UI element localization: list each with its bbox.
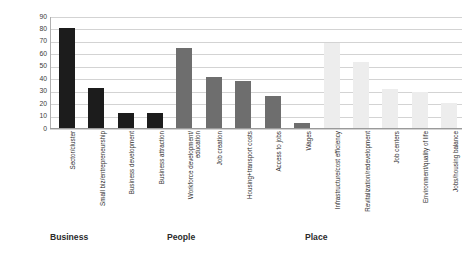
bar [118,113,134,128]
bar [147,113,163,128]
x-tick-label: Business development [128,131,135,219]
x-tick-label: Revitalization/redevelopment [364,131,371,219]
x-tick-label: Sector/cluster [69,131,76,219]
plot-area [50,17,462,129]
bar [235,81,251,128]
gridline [50,129,462,130]
bar [412,92,428,128]
x-tick-label: Business attraction [158,131,165,219]
bar [176,48,192,128]
y-tick-label: 60 [31,51,47,58]
bar [382,89,398,128]
x-tick-label: Small biz/entrepreneurship [99,131,106,219]
x-tick-label: Environment/quality of life [422,131,429,219]
bars-layer [50,17,462,129]
y-tick-label: 40 [31,76,47,83]
x-tick-label: Access to jobs [275,131,282,219]
bar [265,96,281,128]
y-tick-label: 70 [31,38,47,45]
y-tick-label: 30 [31,88,47,95]
bar [59,28,75,128]
group-label-business: Business [50,232,88,242]
x-tick-label: Job centers [393,131,400,219]
x-tick-label: Workforce development/education [187,131,201,219]
bar-chart: Number of Applications 90807060504030201… [0,0,467,265]
bar [441,103,457,128]
y-tick-label: 20 [31,101,47,108]
x-tick-label: Jobs/housing balance [452,131,459,219]
x-axis-category-labels: Sector/clusterSmall biz/entrepreneurship… [50,131,462,223]
bar [353,62,369,128]
x-tick-label: Job creation [216,131,223,219]
y-tick-label: 90 [31,14,47,21]
bar [294,123,310,128]
bar [324,43,340,128]
bar [206,77,222,128]
group-label-place: Place [305,232,327,242]
y-tick-label: 10 [31,113,47,120]
group-label-people: People [167,232,195,242]
y-tick-label: 50 [31,63,47,70]
x-tick-label: Infrastructure/cost efficiency [334,131,341,219]
y-tick-label: 0 [31,126,47,133]
x-tick-label: Wages [305,131,312,219]
y-tick-label: 80 [31,26,47,33]
y-axis-tick-labels: 9080706050403020100 [28,17,47,129]
bar [88,88,104,128]
x-tick-label: Housing+transport costs [246,131,253,219]
